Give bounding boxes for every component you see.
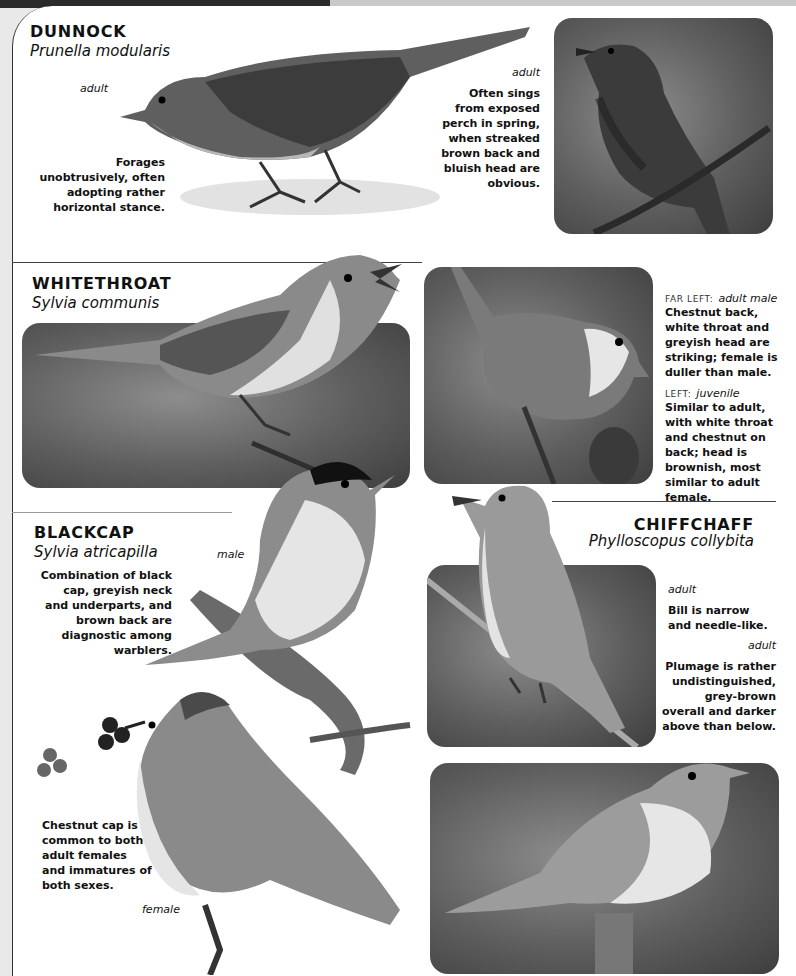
dunnock-photo [554, 18, 773, 234]
label-chiffchaff-1: adult [668, 583, 696, 596]
chiffchaff-photo-2 [430, 763, 779, 974]
label-dunnock-photo: adult [480, 66, 540, 79]
whitethroat-juvenile-photo [424, 267, 653, 484]
label-dunnock-illustration: adult [80, 82, 108, 95]
note-prefix-far-left: FAR LEFT: [665, 294, 713, 304]
text-whitethroat-adult-male: Chestnut back, white throat and greyish … [665, 305, 790, 380]
label-chiffchaff-2: adult [680, 639, 776, 652]
text-dunnock-photo: Often sings from exposed perch in spring… [440, 86, 540, 191]
note-prefix-left: LEFT: [665, 389, 691, 399]
note-whitethroat-adult-male: FAR LEFT: adult male [665, 287, 777, 306]
note-whitethroat-juvenile: LEFT: juvenile [665, 382, 740, 401]
text-whitethroat-juvenile: Similar to adult, with white throat and … [665, 400, 790, 505]
note-label-juvenile: juvenile [696, 387, 739, 400]
species-name-blackcap: BLACKCAP [34, 523, 134, 542]
text-blackcap-female: Chestnut cap is common to both adult fem… [42, 818, 152, 893]
label-blackcap-female: female [142, 903, 180, 916]
text-chiffchaff-2: Plumage is rather undistinguished, grey-… [660, 659, 776, 734]
text-chiffchaff-1: Bill is narrow and needle-like. [668, 603, 768, 633]
note-label-adult-male: adult male [718, 292, 777, 305]
whitethroat-male-bird [30, 240, 410, 440]
chiffchaff-bird-1 [440, 478, 640, 738]
